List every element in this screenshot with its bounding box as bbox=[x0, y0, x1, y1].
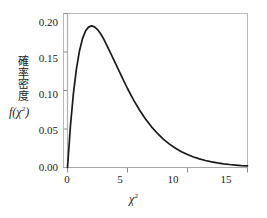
plot-frame-group bbox=[64, 14, 248, 168]
plot-frame bbox=[64, 14, 248, 168]
chi-square-density-chart: 確 率 密 度 f(χ2) χ2 0.20 0.15 0.10 0.05 0.0… bbox=[0, 0, 267, 218]
plot-area bbox=[0, 0, 267, 218]
